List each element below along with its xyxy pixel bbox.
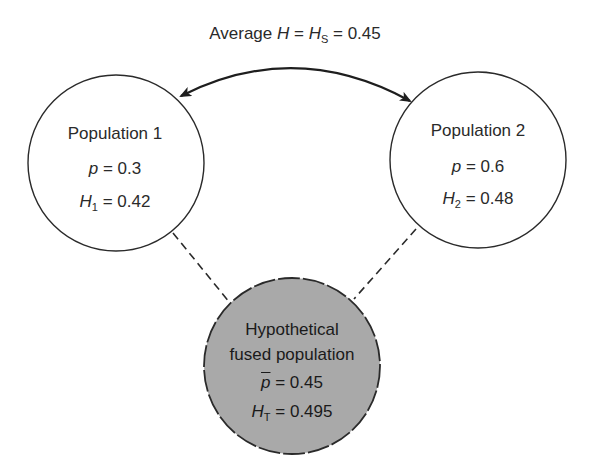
fused-h-t: HT = 0.495 bbox=[252, 402, 333, 423]
h-var: H bbox=[443, 189, 455, 208]
population-1-p: p = 0.3 bbox=[89, 159, 141, 179]
population-2-name: Population 2 bbox=[431, 121, 526, 141]
title-eq1: = bbox=[289, 24, 308, 43]
h-value: = 0.48 bbox=[461, 189, 513, 208]
p-value: = 0.3 bbox=[98, 159, 141, 178]
p-bar-value: = 0.45 bbox=[271, 373, 323, 392]
h-var: H bbox=[252, 402, 264, 421]
population-1-h: H1 = 0.42 bbox=[80, 192, 151, 213]
fused-line-2: fused population bbox=[230, 345, 355, 365]
average-heterozygosity-title: Average H = HS = 0.45 bbox=[209, 24, 380, 45]
p-value: = 0.6 bbox=[461, 157, 504, 176]
h-value: = 0.495 bbox=[271, 402, 333, 421]
title-value: = 0.45 bbox=[328, 24, 380, 43]
population-2-h: H2 = 0.48 bbox=[443, 189, 514, 210]
diagram-canvas bbox=[0, 0, 590, 471]
h-var: H bbox=[80, 192, 92, 211]
h-value: = 0.42 bbox=[98, 192, 150, 211]
title-subscript-s: S bbox=[321, 33, 328, 45]
h-subscript: T bbox=[264, 411, 271, 423]
title-var-hs: H bbox=[309, 24, 321, 43]
population-1-name: Population 1 bbox=[68, 124, 163, 144]
h-subscript: 1 bbox=[92, 201, 98, 213]
fused-line-1: Hypothetical bbox=[245, 320, 339, 340]
fused-p-bar: p = 0.45 bbox=[261, 373, 323, 393]
connector-line-left bbox=[173, 233, 230, 303]
title-prefix: Average bbox=[209, 24, 277, 43]
fused-population-circle bbox=[204, 278, 380, 454]
title-var-h: H bbox=[277, 24, 289, 43]
h-subscript: 2 bbox=[455, 198, 461, 210]
population-2-p: p = 0.6 bbox=[452, 157, 504, 177]
connector-line-right bbox=[354, 229, 416, 299]
double-arrow bbox=[181, 68, 410, 101]
